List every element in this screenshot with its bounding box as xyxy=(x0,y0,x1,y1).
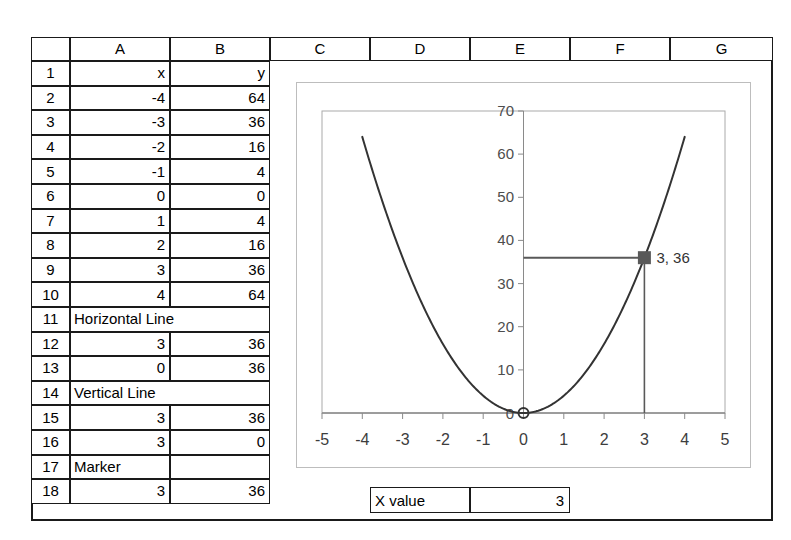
cell-b17[interactable] xyxy=(170,455,270,480)
row-header-18-text: 18 xyxy=(42,480,59,502)
row-header-4[interactable]: 4 xyxy=(31,135,70,160)
spreadsheet-page: ABCDEFG1xy2-4643-3364-2165-1460071482169… xyxy=(0,0,791,540)
cell-b5-text: 4 xyxy=(257,161,265,183)
column-header-a[interactable]: A xyxy=(70,37,170,61)
cell-a2-text: -4 xyxy=(152,87,165,109)
cell-a10[interactable]: 4 xyxy=(70,282,170,307)
cell-a3[interactable]: -3 xyxy=(70,110,170,135)
row-header-2-text: 2 xyxy=(46,87,54,109)
cell-b3-text: 36 xyxy=(248,111,265,133)
cell-a9[interactable]: 3 xyxy=(70,258,170,283)
cell-a15[interactable]: 3 xyxy=(70,405,170,430)
cell-a4-text: -2 xyxy=(152,136,165,158)
row-header-9-text: 9 xyxy=(46,259,54,281)
cell-b13-text: 36 xyxy=(248,357,265,379)
cell-a7-text: 1 xyxy=(157,210,165,232)
y-tick-label: 70 xyxy=(497,102,514,119)
column-header-c[interactable]: C xyxy=(270,37,370,61)
column-header-b[interactable]: B xyxy=(170,37,270,61)
cell-b3[interactable]: 36 xyxy=(170,110,270,135)
cell-b9[interactable]: 36 xyxy=(170,258,270,283)
row-header-13[interactable]: 13 xyxy=(31,356,70,381)
row-header-11[interactable]: 11 xyxy=(31,307,70,332)
cell-a10-text: 4 xyxy=(157,284,165,306)
cell-a8[interactable]: 2 xyxy=(70,233,170,258)
cell-b4[interactable]: 16 xyxy=(170,135,270,160)
row-header-10-text: 10 xyxy=(42,284,59,306)
cell-a16[interactable]: 3 xyxy=(70,430,170,455)
x-tick-label: -5 xyxy=(315,431,329,448)
row-header-15[interactable]: 15 xyxy=(31,405,70,430)
x-value-label-cell: X value xyxy=(370,487,470,513)
y-tick-label: 0 xyxy=(506,405,514,422)
cell-b15-text: 36 xyxy=(248,407,265,429)
x-tick-label: 0 xyxy=(519,431,528,448)
cell-b1[interactable]: y xyxy=(170,61,270,86)
data-point-marker[interactable] xyxy=(638,251,651,264)
cell-b2-text: 64 xyxy=(248,87,265,109)
cell-a14-merged[interactable]: Vertical Line xyxy=(70,381,270,406)
cell-b18[interactable]: 36 xyxy=(170,479,270,504)
row-header-6[interactable]: 6 xyxy=(31,184,70,209)
cell-a1[interactable]: x xyxy=(70,61,170,86)
column-header-e[interactable]: E xyxy=(470,37,570,61)
column-header-f[interactable]: F xyxy=(570,37,670,61)
cell-a12[interactable]: 3 xyxy=(70,332,170,357)
cell-b12-text: 36 xyxy=(248,333,265,355)
row-header-1[interactable]: 1 xyxy=(31,61,70,86)
cell-a17[interactable]: Marker xyxy=(70,455,170,480)
x-tick-label: -4 xyxy=(355,431,369,448)
cell-a5[interactable]: -1 xyxy=(70,159,170,184)
cell-a11-merged[interactable]: Horizontal Line xyxy=(70,307,270,332)
row-header-18[interactable]: 18 xyxy=(31,479,70,504)
x-tick-label: 1 xyxy=(559,431,568,448)
row-header-10[interactable]: 10 xyxy=(31,282,70,307)
column-header-g[interactable]: G xyxy=(670,37,773,61)
cell-b10[interactable]: 64 xyxy=(170,282,270,307)
cell-a4[interactable]: -2 xyxy=(70,135,170,160)
y-tick-label: 20 xyxy=(497,318,514,335)
row-header-5[interactable]: 5 xyxy=(31,159,70,184)
cell-b7[interactable]: 4 xyxy=(170,209,270,234)
cell-b13[interactable]: 36 xyxy=(170,356,270,381)
row-header-17[interactable]: 17 xyxy=(31,455,70,480)
column-header-b-text: B xyxy=(215,38,225,60)
x-value-input-cell[interactable]: 3 xyxy=(470,487,570,513)
column-header-d[interactable]: D xyxy=(370,37,470,61)
row-header-8-text: 8 xyxy=(46,234,54,256)
row-header-9[interactable]: 9 xyxy=(31,258,70,283)
cell-a2[interactable]: -4 xyxy=(70,86,170,111)
cell-b8[interactable]: 16 xyxy=(170,233,270,258)
cell-a14-merged-text: Vertical Line xyxy=(74,382,156,404)
row-header-3[interactable]: 3 xyxy=(31,110,70,135)
cell-b6-text: 0 xyxy=(257,185,265,207)
row-header-16[interactable]: 16 xyxy=(31,430,70,455)
row-header-14-text: 14 xyxy=(42,382,59,404)
cell-b15[interactable]: 36 xyxy=(170,405,270,430)
row-header-12[interactable]: 12 xyxy=(31,332,70,357)
row-header-5-text: 5 xyxy=(46,161,54,183)
cell-a11-merged-text: Horizontal Line xyxy=(74,308,174,330)
cell-a17-text: Marker xyxy=(74,456,121,478)
row-header-14[interactable]: 14 xyxy=(31,381,70,406)
cell-a7[interactable]: 1 xyxy=(70,209,170,234)
cell-a6-text: 0 xyxy=(157,185,165,207)
cell-b16[interactable]: 0 xyxy=(170,430,270,455)
row-header-2[interactable]: 2 xyxy=(31,86,70,111)
cell-b2[interactable]: 64 xyxy=(170,86,270,111)
cell-b6[interactable]: 0 xyxy=(170,184,270,209)
cell-a12-text: 3 xyxy=(157,333,165,355)
row-header-12-text: 12 xyxy=(42,333,59,355)
cell-b12[interactable]: 36 xyxy=(170,332,270,357)
x-tick-labels: -5 -4 -3 -2 -1 0 1 2 3 4 5 xyxy=(315,431,730,448)
cell-a16-text: 3 xyxy=(157,431,165,453)
row-header-7[interactable]: 7 xyxy=(31,209,70,234)
cell-b7-text: 4 xyxy=(257,210,265,232)
cell-a18[interactable]: 3 xyxy=(70,479,170,504)
cell-a13[interactable]: 0 xyxy=(70,356,170,381)
chart-container[interactable]: 70 60 50 40 30 20 10 0 -5 -4 -3 -2 -1 0 … xyxy=(296,82,751,468)
cell-a5-text: -1 xyxy=(152,161,165,183)
cell-a6[interactable]: 0 xyxy=(70,184,170,209)
cell-b5[interactable]: 4 xyxy=(170,159,270,184)
row-header-8[interactable]: 8 xyxy=(31,233,70,258)
